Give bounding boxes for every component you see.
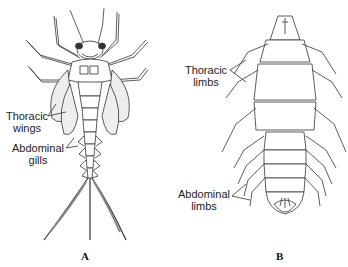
figure-b-insect xyxy=(222,16,346,214)
abdominal-gills-leader xyxy=(66,138,78,148)
figure-b-letter: B xyxy=(276,250,283,262)
figure-a-letter: A xyxy=(81,250,89,262)
label-thoracic-wings: Thoracic wings xyxy=(2,110,52,134)
label-thoracic-limbs: Thoracic limbs xyxy=(182,64,230,88)
label-abdominal-limbs: Abdominal limbs xyxy=(176,188,232,212)
diagram-canvas xyxy=(0,0,348,267)
abdominal-limbs-leader xyxy=(232,184,250,200)
label-abdominal-gills: Abdominal gills xyxy=(10,142,66,166)
